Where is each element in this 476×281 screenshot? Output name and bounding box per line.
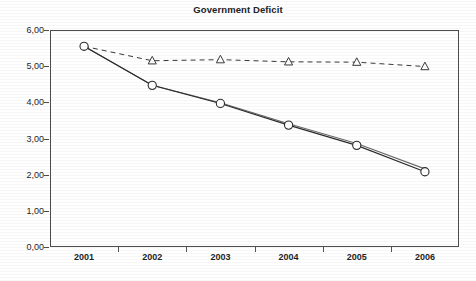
data-point-marker-circle [353, 141, 361, 149]
data-point-marker-circle [148, 81, 156, 89]
x-axis-tick-label: 2006 [395, 252, 455, 262]
y-axis-ticks [0, 30, 50, 247]
y-axis-tick-mark [44, 30, 49, 31]
x-axis-labels: 200120022003200420052006 [50, 252, 459, 270]
data-point-marker-triangle [285, 57, 293, 65]
data-point-marker-circle [80, 42, 88, 50]
data-point-marker-triangle [421, 62, 429, 70]
y-axis-tick-mark [44, 139, 49, 140]
series-dashed-triangle-series [84, 46, 429, 69]
series-line [84, 46, 425, 171]
y-axis-tick-mark [44, 211, 49, 212]
data-point-marker-triangle [216, 55, 224, 63]
series-line [84, 46, 425, 66]
x-axis-tick-label: 2005 [327, 252, 387, 262]
series-line [84, 46, 425, 169]
x-axis-tick-label: 2001 [54, 252, 114, 262]
data-point-marker-circle [421, 168, 429, 176]
chart-title: Government Deficit [0, 4, 476, 15]
series-solid-circle-series [80, 42, 429, 176]
data-point-marker-triangle [353, 58, 361, 66]
y-axis-tick-mark [44, 247, 49, 248]
data-point-marker-circle [216, 99, 224, 107]
x-axis-tick-label: 2002 [122, 252, 182, 262]
x-axis-tick-label: 2004 [259, 252, 319, 262]
y-axis-tick-mark [44, 175, 49, 176]
chart-figure: Government Deficit 0,001,002,003,004,005… [0, 0, 476, 281]
y-axis-tick-mark [44, 66, 49, 67]
x-axis-tick-label: 2003 [190, 252, 250, 262]
data-point-marker-circle [284, 121, 292, 129]
series-solid-secondary-series [84, 46, 425, 169]
series-layer [50, 30, 459, 247]
y-axis-tick-mark [44, 102, 49, 103]
